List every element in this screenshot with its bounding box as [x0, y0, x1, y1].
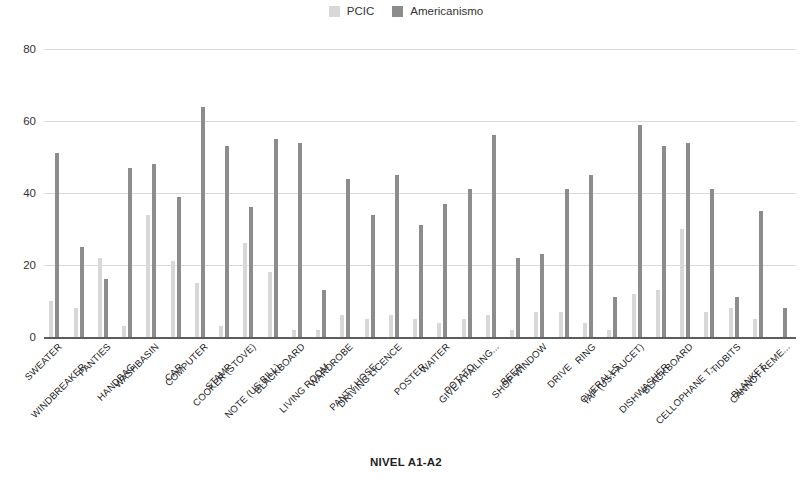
bar-americanismo: [443, 204, 447, 337]
bar-americanismo: [540, 254, 544, 337]
y-axis-tick-label: 80: [0, 43, 36, 55]
y-axis-tick-label: 0: [0, 331, 36, 343]
bar-group: [680, 49, 695, 337]
bar-pcic: [413, 319, 417, 337]
bar-pcic: [146, 215, 150, 337]
bar-pcic: [268, 272, 272, 337]
bar-americanismo: [225, 146, 229, 337]
bar-group: [777, 49, 792, 337]
legend-item-americanismo: Americanismo: [392, 5, 483, 17]
bar-group: [607, 49, 622, 337]
bar-pcic: [753, 319, 757, 337]
bar-americanismo: [80, 247, 84, 337]
y-axis-ticks: 020406080: [0, 49, 36, 337]
bar-americanismo: [298, 143, 302, 337]
bar-group: [49, 49, 64, 337]
bar-group: [583, 49, 598, 337]
bar-pcic: [365, 319, 369, 337]
y-axis-tick-label: 60: [0, 115, 36, 127]
chart-legend: PCIC Americanismo: [0, 5, 812, 17]
bar-americanismo: [128, 168, 132, 337]
bar-americanismo: [589, 175, 593, 337]
bar-group: [122, 49, 137, 337]
bar-americanismo: [274, 139, 278, 337]
bar-group: [534, 49, 549, 337]
bar-pcic: [607, 330, 611, 337]
bar-group: [365, 49, 380, 337]
bar-pcic: [559, 312, 563, 337]
bar-pcic: [729, 308, 733, 337]
bar-pcic: [656, 290, 660, 337]
bar-group: [98, 49, 113, 337]
bar-pcic: [243, 243, 247, 337]
bar-americanismo: [395, 175, 399, 337]
bar-americanismo: [686, 143, 690, 337]
bar-pcic: [49, 301, 53, 337]
bar-pcic: [389, 315, 393, 337]
bar-group: [486, 49, 501, 337]
bar-group: [632, 49, 647, 337]
bar-americanismo: [177, 197, 181, 337]
legend-swatch-icon: [392, 6, 403, 17]
bar-group: [268, 49, 283, 337]
bar-pcic: [510, 330, 514, 337]
bar-pcic: [340, 315, 344, 337]
bar-americanismo: [152, 164, 156, 337]
bar-group: [462, 49, 477, 337]
x-axis-labels: SWEATERWINDBREAKERPANTIESHANDBAGWASHBASI…: [44, 339, 796, 449]
bar-americanismo: [638, 125, 642, 337]
bar-group: [171, 49, 186, 337]
legend-label-pcic: PCIC: [347, 5, 374, 17]
bar-americanismo: [735, 297, 739, 337]
bar-series-container: [44, 49, 796, 337]
bar-group: [340, 49, 355, 337]
bar-americanismo: [565, 189, 569, 337]
bar-group: [559, 49, 574, 337]
bar-group: [195, 49, 210, 337]
bar-americanismo: [201, 107, 205, 337]
bar-pcic: [704, 312, 708, 337]
bar-group: [74, 49, 89, 337]
legend-swatch-icon: [329, 6, 340, 17]
bar-pcic: [122, 326, 126, 337]
bar-americanismo: [468, 189, 472, 337]
bar-pcic: [486, 315, 490, 337]
bar-pcic: [98, 258, 102, 337]
y-axis-tick-label: 40: [0, 187, 36, 199]
bar-americanismo: [249, 207, 253, 337]
bar-americanismo: [346, 179, 350, 337]
bar-americanismo: [55, 153, 59, 337]
bar-group: [753, 49, 768, 337]
bar-americanismo: [783, 308, 787, 337]
bar-group: [146, 49, 161, 337]
legend-item-pcic: PCIC: [329, 5, 374, 17]
y-axis-tick-label: 20: [0, 259, 36, 271]
bar-americanismo: [710, 189, 714, 337]
bar-pcic: [292, 330, 296, 337]
plot-area: [44, 49, 796, 337]
bar-pcic: [583, 323, 587, 337]
bar-pcic: [534, 312, 538, 337]
bar-group: [510, 49, 525, 337]
bar-americanismo: [516, 258, 520, 337]
bar-pcic: [74, 308, 78, 337]
bar-group: [292, 49, 307, 337]
bar-pcic: [680, 229, 684, 337]
bar-americanismo: [613, 297, 617, 337]
bar-group: [729, 49, 744, 337]
bar-americanismo: [759, 211, 763, 337]
bar-americanismo: [371, 215, 375, 337]
x-axis-title: NIVEL A1-A2: [0, 456, 812, 468]
bar-pcic: [171, 261, 175, 337]
bar-group: [437, 49, 452, 337]
bar-group: [219, 49, 234, 337]
bar-americanismo: [492, 135, 496, 337]
bar-pcic: [316, 330, 320, 337]
legend-label-americanismo: Americanismo: [410, 5, 483, 17]
bar-pcic: [195, 283, 199, 337]
bar-group: [704, 49, 719, 337]
bar-americanismo: [419, 225, 423, 337]
bar-chart: PCIC Americanismo 020406080 SWEATERWINDB…: [0, 0, 812, 483]
bar-americanismo: [322, 290, 326, 337]
bar-pcic: [219, 326, 223, 337]
